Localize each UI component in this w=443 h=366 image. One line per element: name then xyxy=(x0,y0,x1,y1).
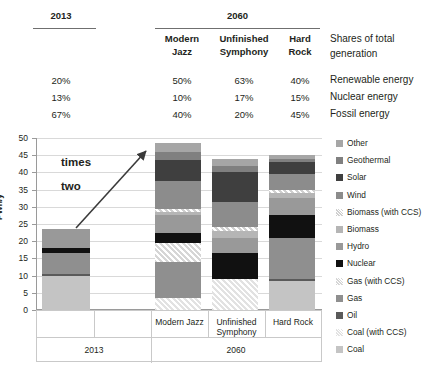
y-axis-tick-label: 30 xyxy=(8,202,28,212)
header-scenario-modern-jazz-line1: Modern xyxy=(155,33,209,44)
annotation-two: two xyxy=(61,180,81,192)
legend-item[interactable]: Geothermal xyxy=(330,153,443,170)
bar-segment-nuclear xyxy=(155,233,201,243)
bar-segment-solar xyxy=(155,160,201,181)
bar-segment-nuclear xyxy=(212,253,258,279)
legend-label: Biomass xyxy=(347,222,379,237)
header-scenario-unfinished-symphony-line2: Symphony xyxy=(211,46,277,57)
legend-item[interactable]: Hydro xyxy=(330,239,443,256)
bar-segment-oil xyxy=(42,274,90,276)
legend-label: Oil xyxy=(347,308,357,323)
row-renewable-modern-jazz: 50% xyxy=(155,75,209,86)
bar-segment-coal-with-ccs xyxy=(212,279,258,310)
x-label-unfinished-line2: Symphony xyxy=(216,327,256,337)
x-label-unfinished-symphony: Unfinished Symphony xyxy=(208,317,265,337)
legend-item[interactable]: Coal xyxy=(330,342,443,359)
x-axis-table-rule xyxy=(37,337,321,338)
legend-swatch-icon xyxy=(336,192,343,199)
shares-table: 2013 2060 Modern Jazz Unfinished Symphon… xyxy=(0,0,443,128)
legend-swatch-icon xyxy=(336,226,343,233)
header-rule-2013 xyxy=(33,28,96,29)
bar-2013[interactable] xyxy=(42,229,90,310)
legend-swatch-icon xyxy=(336,329,343,336)
row-label-renewable-energy: Renewable energy xyxy=(330,73,413,86)
legend-label: Biomass (with CCS) xyxy=(347,205,421,220)
x-label-unfinished-line1: Unfinished xyxy=(216,317,256,327)
row-renewable-unfinished-symphony: 63% xyxy=(211,75,277,86)
bar-segment-biomass-with-ccs xyxy=(212,227,258,230)
legend-item[interactable]: Gas xyxy=(330,291,443,308)
bar-segment-geothermal xyxy=(212,166,258,173)
bar-segment-hydro xyxy=(42,229,90,248)
legend-item[interactable]: Gas (with CCS) xyxy=(330,274,443,291)
bar-segment-hydro xyxy=(155,215,201,232)
row-nuclear-hard-rock: 15% xyxy=(279,92,321,103)
legend-item[interactable]: Biomass xyxy=(330,222,443,239)
legend-item[interactable]: Nuclear xyxy=(330,256,443,273)
legend-item[interactable]: Solar xyxy=(330,170,443,187)
bar-hard-rock[interactable] xyxy=(269,155,315,310)
bar-segment-gas xyxy=(42,253,90,273)
legend-item[interactable]: Other xyxy=(330,136,443,153)
y-axis-tick-label: 45 xyxy=(8,150,28,160)
legend-item[interactable]: Oil xyxy=(330,308,443,325)
legend-label: Gas xyxy=(347,291,362,306)
x-group-2013: 2013 xyxy=(37,345,151,355)
row-fossil-unfinished-symphony: 20% xyxy=(211,109,277,120)
bar-segment-biomass xyxy=(212,231,258,238)
bar-segment-coal xyxy=(269,281,315,310)
legend-swatch-icon xyxy=(336,312,343,319)
y-axis-tick-label: 35 xyxy=(8,185,28,195)
legend-swatch-icon xyxy=(336,140,343,147)
legend-label: Wind xyxy=(347,188,366,203)
bar-segment-hydro xyxy=(269,198,315,215)
legend-item[interactable]: Wind xyxy=(330,188,443,205)
legend-item[interactable]: Biomass (with CCS) xyxy=(330,205,443,222)
y-axis-tick-label: 50 xyxy=(8,133,28,143)
header-scenario-hard-rock-line1: Hard xyxy=(279,33,321,44)
legend-swatch-icon xyxy=(336,174,343,181)
y-axis-tick-label: 15 xyxy=(8,253,28,263)
legend-label: Geothermal xyxy=(347,153,390,168)
chart-legend: OtherGeothermalSolarWindBiomass (with CC… xyxy=(330,136,443,359)
row-nuclear-unfinished-symphony: 17% xyxy=(211,92,277,103)
legend-label: Solar xyxy=(347,170,366,185)
bar-unfinished-symphony[interactable] xyxy=(212,159,258,310)
bar-segment-hydro xyxy=(212,238,258,253)
legend-swatch-icon xyxy=(336,209,343,216)
legend-label: Nuclear xyxy=(347,256,376,271)
legend-swatch-icon xyxy=(336,243,343,250)
row-renewable-2013: 20% xyxy=(26,75,96,86)
bar-segment-oil xyxy=(269,279,315,280)
bar-segment-wind xyxy=(269,174,315,189)
shares-caption-line1: Shares of total xyxy=(330,32,394,45)
bar-segment-gas xyxy=(155,262,201,298)
legend-item[interactable]: Coal (with CCS) xyxy=(330,325,443,342)
bar-segment-geothermal xyxy=(269,159,315,162)
legend-swatch-icon xyxy=(336,346,343,353)
shares-caption-line2: generation xyxy=(330,47,377,60)
header-rule-2060 xyxy=(155,28,320,29)
legend-label: Coal (with CCS) xyxy=(347,325,406,340)
legend-swatch-icon xyxy=(336,278,343,285)
y-axis-line xyxy=(36,138,37,310)
bar-modern-jazz[interactable] xyxy=(155,143,201,310)
y-axis-tick-label: 5 xyxy=(8,288,28,298)
annotation-times: times xyxy=(61,156,91,168)
row-label-fossil-energy: Fossil energy xyxy=(330,107,389,120)
legend-label: Gas (with CCS) xyxy=(347,274,405,289)
bar-segment-solar xyxy=(212,172,258,201)
bar-segment-nuclear xyxy=(42,248,90,253)
bar-segment-coal-with-ccs xyxy=(155,298,201,310)
x-label-modern-jazz: Modern Jazz xyxy=(151,317,208,327)
bar-segment-geothermal xyxy=(155,152,201,161)
bar-segment-nuclear xyxy=(269,215,315,237)
y-axis-label: PWh/y xyxy=(0,194,4,220)
y-axis-tick-label: 10 xyxy=(8,271,28,281)
header-scenario-hard-rock-line2: Rock xyxy=(279,46,321,57)
bar-segment-wind xyxy=(212,202,258,228)
legend-label: Hydro xyxy=(347,239,369,254)
bar-segment-wind xyxy=(155,181,201,209)
bar-segment-coal xyxy=(42,276,90,310)
bar-segment-other xyxy=(269,155,315,158)
